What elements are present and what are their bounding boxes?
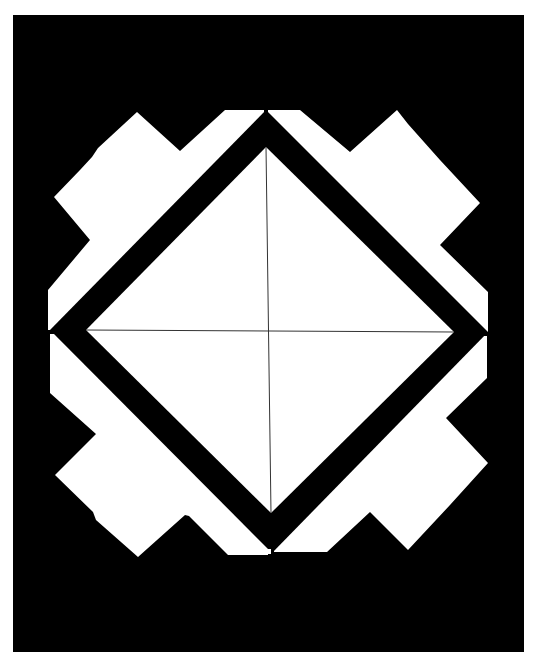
emblem-figure: Black-and-white geometric emblem: a whit… [0, 0, 534, 659]
emblem-svg [0, 0, 534, 659]
bottom-apex-mark [268, 549, 271, 554]
